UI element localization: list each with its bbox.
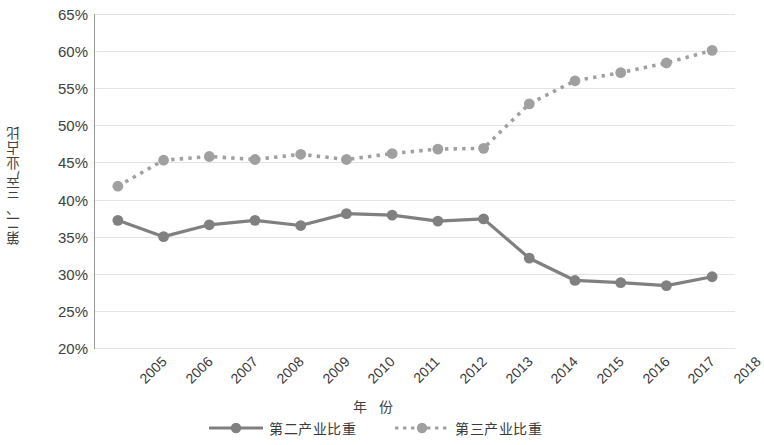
legend-label-secondary: 第二产业比重 [269, 418, 356, 438]
legend-item-tertiary[interactable]: 第三产业比重 [394, 418, 542, 438]
x-tick-label: 2013 [503, 354, 535, 386]
legend-label-tertiary: 第三产业比重 [455, 418, 542, 438]
x-tick-label: 2007 [228, 354, 260, 386]
x-tick-label: 2012 [457, 354, 489, 386]
x-tick-label: 2006 [183, 354, 215, 386]
x-tick-label: 2011 [411, 354, 442, 385]
x-tick-label: 2017 [686, 354, 718, 386]
x-tick-label: 2015 [594, 354, 626, 386]
x-tick-label: 2008 [274, 354, 306, 386]
x-tick-label: 2016 [640, 354, 672, 386]
legend-swatch-dotted-line-icon [394, 421, 450, 435]
x-tick-label: 2005 [137, 354, 169, 386]
chart-legend: 第二产业比重 第三产业比重 [0, 418, 750, 438]
x-tick-label: 2009 [320, 354, 352, 386]
legend-swatch-solid-line-icon [208, 421, 264, 435]
x-tick-label: 2018 [731, 354, 763, 386]
x-tick-label: 2010 [366, 354, 398, 386]
x-axis-title: 年 份 [0, 396, 750, 416]
x-tick-label: 2014 [548, 354, 580, 386]
legend-item-secondary[interactable]: 第二产业比重 [208, 418, 356, 438]
